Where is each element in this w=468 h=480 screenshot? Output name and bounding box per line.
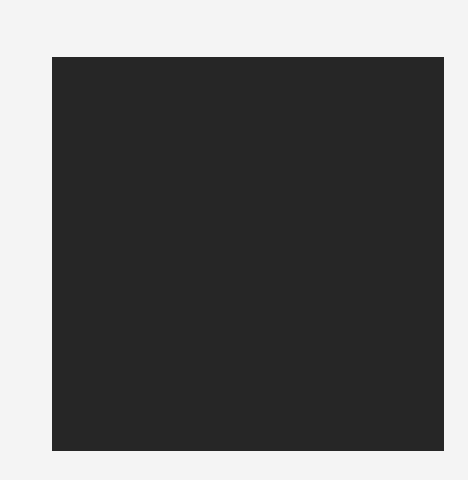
heatmap-image (52, 57, 444, 451)
